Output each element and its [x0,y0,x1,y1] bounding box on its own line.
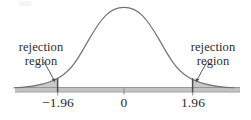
axis-baseline-bar [15,88,240,93]
rejection-region-label-right: rejection region [176,41,250,68]
rejection-region-left-shading [16,79,58,88]
normal-distribution-figure: rejection region rejection region −1.96 … [0,0,251,120]
axis-tick-label-positive-1-96: 1.96 [168,96,218,111]
rejection-region-label-right-line2: region [176,55,250,69]
rejection-region-label-right-line1: rejection [176,41,250,55]
rejection-region-label-left-line1: rejection [4,41,78,55]
axis-tick-label-zero: 0 [104,96,144,111]
rejection-region-label-left-line2: region [4,55,78,69]
rejection-region-label-left: rejection region [4,41,78,68]
axis-tick-label-negative-1-96: −1.96 [27,96,89,111]
